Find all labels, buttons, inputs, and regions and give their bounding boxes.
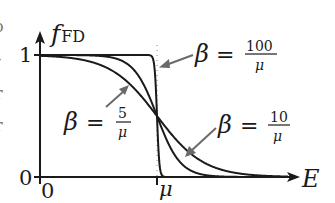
svg-text:=: = bbox=[240, 113, 258, 138]
svg-text:β: β bbox=[194, 40, 209, 68]
svg-text:μ: μ bbox=[118, 124, 127, 140]
left-edge-text-fragments: o - r r bbox=[0, 17, 4, 135]
pointer-arrow bbox=[166, 55, 193, 65]
y-tick-label-1: 1 bbox=[19, 43, 32, 67]
svg-text:β: β bbox=[63, 108, 78, 136]
y-axis-label: fFD bbox=[49, 19, 85, 48]
arrowhead-icon bbox=[159, 59, 170, 68]
annotation-beta-100: β = 100 μ bbox=[159, 38, 277, 73]
y-tick-label-0: 0 bbox=[19, 166, 32, 190]
edge-fragment: o bbox=[0, 17, 4, 36]
x-axis-label: E bbox=[301, 165, 320, 193]
svg-text:μ: μ bbox=[273, 128, 282, 144]
svg-text:100: 100 bbox=[246, 38, 273, 54]
edge-fragment: - bbox=[0, 49, 1, 68]
x-tick-label-mu: μ bbox=[159, 177, 173, 201]
svg-text:10: 10 bbox=[270, 109, 288, 125]
edge-fragment: r bbox=[0, 116, 3, 135]
annotation-beta-10: β = 10 μ bbox=[185, 109, 290, 157]
svg-text:=: = bbox=[86, 110, 104, 135]
svg-text:5: 5 bbox=[118, 105, 127, 121]
pointer-arrow bbox=[191, 128, 216, 151]
svg-text:μ: μ bbox=[255, 57, 264, 73]
annotation-beta-5: β = 5 μ bbox=[63, 85, 131, 140]
x-tick-label-0: 0 bbox=[41, 179, 54, 203]
edge-fragment: r bbox=[0, 84, 3, 103]
fermi-dirac-chart: o - r r fFD E 1 0 0 μ β = 100 μ bbox=[0, 0, 335, 203]
svg-text:=: = bbox=[216, 42, 234, 67]
svg-text:β: β bbox=[217, 111, 232, 139]
